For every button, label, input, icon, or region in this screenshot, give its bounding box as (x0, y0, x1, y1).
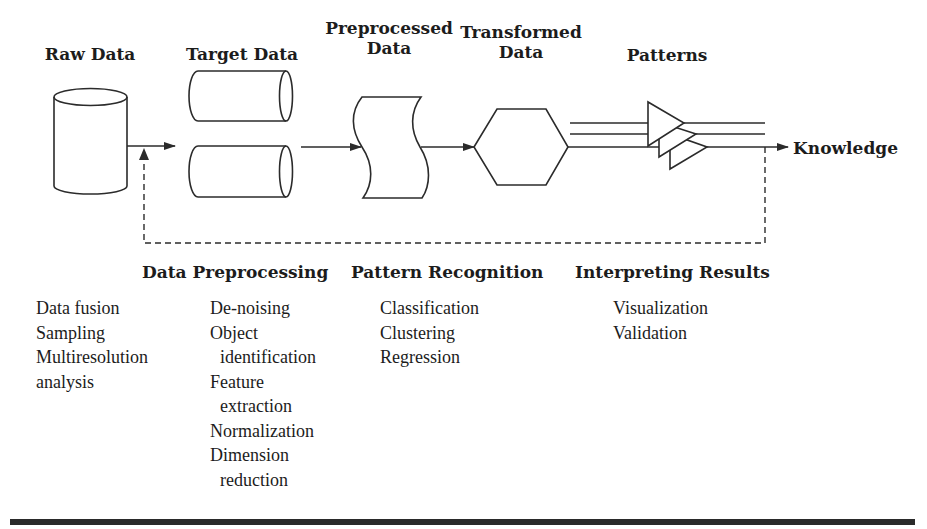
raw-data-ops-list: Data fusion Sampling Multiresolution ana… (36, 296, 148, 394)
target-data-cylinder-bottom-icon (189, 146, 293, 197)
list-item: Classification (380, 296, 479, 321)
list-item: extraction (210, 394, 316, 419)
transformed-data-hexagon-icon (474, 109, 568, 185)
label-knowledge: Knowledge (793, 138, 898, 158)
list-item: De-noising (210, 296, 316, 321)
list-item: analysis (36, 370, 148, 395)
list-item: Normalization (210, 419, 316, 444)
list-item: Multiresolution (36, 345, 148, 370)
patterns-triangles-icon (648, 102, 707, 169)
label-preprocessed-line1: Preprocessed (325, 18, 453, 38)
list-item: Feature (210, 370, 316, 395)
list-item: Validation (613, 321, 708, 346)
list-item: reduction (210, 468, 316, 493)
label-preprocessed-line2: Data (325, 38, 453, 58)
label-pattern-recognition: Pattern Recognition (351, 262, 543, 282)
list-item: Visualization (613, 296, 708, 321)
label-data-preprocessing: Data Preprocessing (142, 262, 328, 282)
interpreting-results-ops-list: Visualization Validation (613, 296, 708, 345)
target-data-cylinder-top-icon (189, 71, 292, 121)
bottom-rule-divider (10, 519, 915, 525)
list-item: Data fusion (36, 296, 148, 321)
preprocessed-data-wavy-icon (353, 97, 428, 198)
list-item: Dimension (210, 443, 316, 468)
feedback-arrowhead-icon (139, 148, 149, 160)
list-item: Object (210, 321, 316, 346)
raw-data-cylinder-icon (54, 89, 127, 195)
list-item: Clustering (380, 321, 479, 346)
label-transformed-line1: Transformed (460, 22, 582, 42)
data-preprocessing-ops-list: De-noising Object identification Feature… (210, 296, 316, 492)
label-target-data: Target Data (186, 44, 298, 64)
label-interpreting-results: Interpreting Results (575, 262, 770, 282)
label-preprocessed-data: Preprocessed Data (325, 18, 453, 58)
label-transformed-line2: Data (460, 42, 582, 62)
list-item: Sampling (36, 321, 148, 346)
list-item: identification (210, 345, 316, 370)
label-raw-data: Raw Data (45, 44, 136, 64)
label-transformed-data: Transformed Data (460, 22, 582, 62)
label-patterns: Patterns (627, 45, 708, 65)
pattern-recognition-ops-list: Classification Clustering Regression (380, 296, 479, 370)
kdd-process-diagram: Raw Data Target Data Preprocessed Data T… (0, 0, 927, 529)
list-item: Regression (380, 345, 479, 370)
